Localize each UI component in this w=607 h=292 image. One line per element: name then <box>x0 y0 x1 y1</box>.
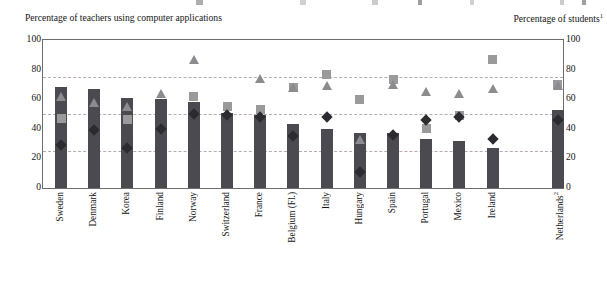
x-label-sweden: Sweden <box>55 192 65 221</box>
x-label-text: Italy <box>321 192 331 209</box>
triangle-marker-ireland <box>488 84 498 93</box>
x-label-text: France <box>254 192 264 217</box>
x-label-netherlands: Netherlands2 <box>552 192 565 240</box>
x-label-text: Hungary <box>354 192 364 225</box>
bar-sweden <box>55 87 67 188</box>
x-label-text: Norway <box>188 192 198 222</box>
plot-area <box>42 39 564 189</box>
x-label-spain: Spain <box>387 192 397 213</box>
square-marker-sweden <box>57 114 66 123</box>
x-label-text: Ireland <box>487 192 497 218</box>
x-label-hungary: Hungary <box>354 192 364 225</box>
square-marker-korea <box>123 115 132 124</box>
tick-left-0: 0 <box>13 182 41 192</box>
x-label-text: Sweden <box>55 192 65 221</box>
x-label-text: Finland <box>155 192 165 220</box>
tick-left-80: 80 <box>13 64 41 74</box>
diamond-marker-ireland <box>487 133 498 144</box>
x-label-switzerland: Switzerland <box>221 192 231 236</box>
legend-row-clipped <box>0 0 607 8</box>
triangle-marker-norway <box>189 55 199 64</box>
x-label-finland: Finland <box>155 192 165 220</box>
triangle-marker-italy <box>322 81 332 90</box>
tick-left-100: 100 <box>13 34 41 44</box>
triangle-marker-portugal <box>421 87 431 96</box>
bar-portugal <box>420 139 432 188</box>
triangle-marker-spain <box>388 80 398 89</box>
legend-swatch-0 <box>196 0 203 5</box>
triangle-marker-mexico <box>454 89 464 98</box>
x-label-belgium-fl: Belgium (Fl.) <box>287 192 297 243</box>
legend-swatch-5 <box>560 0 564 5</box>
right-axis-caption-text: Percentage of students <box>513 13 599 24</box>
x-label-korea: Korea <box>121 192 131 215</box>
bar-mexico <box>453 141 465 188</box>
gridline-75 <box>43 77 563 78</box>
chart-figure: Percentage of teachers using computer ap… <box>0 0 607 292</box>
bar-finland <box>155 99 167 188</box>
tick-right-60: 60 <box>566 93 594 103</box>
tick-right-20: 20 <box>566 152 594 162</box>
x-label-text: Netherlands <box>555 195 565 240</box>
diamond-marker-italy <box>321 111 332 122</box>
x-label-footnote-marker: 2 <box>552 192 559 195</box>
bar-spain <box>387 133 399 188</box>
right-axis-caption: Percentage of students1 <box>513 12 603 24</box>
x-label-text: Spain <box>387 192 397 213</box>
legend-swatch-1 <box>300 0 306 5</box>
x-label-mexico: Mexico <box>453 192 463 220</box>
x-label-text: Mexico <box>453 192 463 220</box>
triangle-marker-belgium-fl <box>288 83 298 92</box>
x-label-italy: Italy <box>321 192 331 209</box>
legend-swatch-2 <box>372 0 378 5</box>
tick-right-100: 100 <box>566 34 594 44</box>
square-marker-portugal <box>422 124 431 133</box>
x-label-norway: Norway <box>188 192 198 222</box>
x-label-france: France <box>254 192 264 217</box>
tick-left-60: 60 <box>13 93 41 103</box>
x-label-text: Belgium (Fl.) <box>287 192 297 243</box>
triangle-marker-france <box>255 74 265 83</box>
x-label-denmark: Denmark <box>88 192 98 227</box>
tick-right-40: 40 <box>566 123 594 133</box>
x-label-ireland: Ireland <box>487 192 497 218</box>
triangle-marker-finland <box>156 89 166 98</box>
bar-ireland <box>487 148 499 188</box>
right-axis-footnote-marker: 1 <box>600 12 603 19</box>
tick-right-0: 0 <box>566 182 594 192</box>
legend-swatch-6 <box>582 0 586 5</box>
tick-left-20: 20 <box>13 152 41 162</box>
square-marker-ireland <box>488 55 497 64</box>
triangle-marker-sweden <box>56 92 66 101</box>
x-label-text: Portugal <box>420 192 430 224</box>
x-label-text: Switzerland <box>221 192 231 236</box>
tick-left-40: 40 <box>13 123 41 133</box>
x-label-text: Denmark <box>88 192 98 227</box>
square-marker-hungary <box>355 95 364 104</box>
triangle-marker-netherlands <box>553 81 563 90</box>
x-label-text: Korea <box>121 192 131 215</box>
triangle-marker-korea <box>122 102 132 111</box>
legend-swatch-3 <box>418 0 422 5</box>
bar-italy <box>321 129 333 188</box>
left-axis-caption: Percentage of teachers using computer ap… <box>25 12 222 23</box>
x-label-portugal: Portugal <box>420 192 430 224</box>
triangle-marker-hungary <box>355 135 365 144</box>
square-marker-italy <box>322 70 331 79</box>
bar-france <box>254 115 266 188</box>
bar-switzerland <box>221 113 233 188</box>
triangle-marker-denmark <box>89 98 99 107</box>
tick-right-80: 80 <box>566 64 594 74</box>
legend-swatch-4 <box>470 0 474 5</box>
square-marker-norway <box>189 92 198 101</box>
